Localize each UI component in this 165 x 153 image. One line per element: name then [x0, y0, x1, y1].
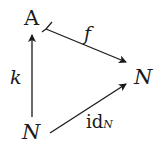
label-id-n: idN [86, 113, 113, 131]
label-id-subscript: N [103, 118, 113, 131]
label-f: f [84, 24, 91, 43]
label-k: k [10, 68, 22, 87]
label-id-main: id [86, 111, 103, 132]
node-a: A [24, 8, 39, 29]
node-n-bottom: N [22, 122, 40, 143]
commutative-diagram: A N N f k idN [0, 0, 165, 153]
node-n-right: N [134, 67, 152, 88]
